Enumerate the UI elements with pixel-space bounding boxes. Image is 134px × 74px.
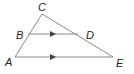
label-e: E <box>116 57 124 69</box>
parallel-arrow-icon-ae <box>50 54 56 60</box>
label-d: D <box>86 29 94 41</box>
label-b: B <box>16 29 23 41</box>
parallel-arrow-icon-bd <box>50 31 56 37</box>
triangle-diagram: C B D A E <box>0 0 134 74</box>
label-c: C <box>38 1 46 13</box>
label-a: A <box>4 56 12 68</box>
